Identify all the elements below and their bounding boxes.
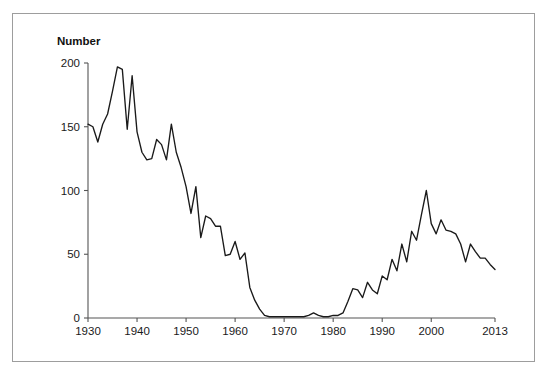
- figure-root: 0501001502001930194019501960197019801990…: [0, 0, 548, 382]
- x-tick-label: 1990: [369, 325, 395, 337]
- y-tick-label: 50: [67, 248, 80, 260]
- x-tick-label: 2000: [418, 325, 444, 337]
- y-axis-title: Number: [57, 35, 101, 47]
- line-chart: 0501001502001930194019501960197019801990…: [0, 0, 548, 382]
- x-tick-label: 1970: [271, 325, 297, 337]
- x-tick-label: 1930: [75, 325, 101, 337]
- x-tick-label: 2013: [482, 325, 508, 337]
- x-tick-label: 1940: [124, 325, 150, 337]
- y-tick-label: 150: [61, 121, 80, 133]
- x-tick-label: 1980: [320, 325, 346, 337]
- y-tick-label: 200: [61, 57, 80, 69]
- y-tick-label: 100: [61, 185, 80, 197]
- y-tick-label: 0: [74, 312, 80, 324]
- series-line-1: [88, 67, 495, 317]
- x-tick-label: 1960: [222, 325, 248, 337]
- x-tick-label: 1950: [173, 325, 199, 337]
